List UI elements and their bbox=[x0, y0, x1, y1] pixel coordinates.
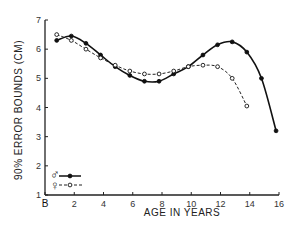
chart: B2468101214161234567 ♂♀ AGE IN YEARS 90%… bbox=[0, 0, 300, 231]
x-tick-label: 14 bbox=[245, 199, 255, 209]
x-tick-label: 6 bbox=[130, 199, 135, 209]
series-male-point bbox=[69, 34, 73, 38]
legend: ♂♀ bbox=[50, 167, 82, 193]
series-layer bbox=[55, 33, 278, 133]
x-tick-label: 4 bbox=[101, 199, 106, 209]
series-female-point bbox=[69, 39, 73, 43]
y-tick-label: 1 bbox=[36, 190, 41, 200]
series-female-point bbox=[186, 65, 190, 69]
series-female-point bbox=[99, 56, 103, 60]
series-male-point bbox=[201, 53, 205, 57]
series-male-point bbox=[55, 39, 59, 43]
series-female-point bbox=[157, 72, 161, 76]
series-female-point bbox=[245, 104, 249, 108]
series-male-point bbox=[260, 76, 264, 80]
series-female-point bbox=[55, 33, 59, 37]
series-female-point bbox=[84, 47, 88, 51]
series-male-point bbox=[84, 41, 88, 45]
y-tick-label: 2 bbox=[36, 161, 41, 171]
x-tick-label: 2 bbox=[72, 199, 77, 209]
y-tick-label: 3 bbox=[36, 132, 41, 142]
series-female-point bbox=[201, 63, 205, 67]
series-male-point bbox=[216, 43, 220, 47]
series-male-line bbox=[57, 36, 276, 131]
x-axis-title: AGE IN YEARS bbox=[144, 207, 220, 218]
y-axis-title: 90% ERROR BOUNDS (CM) bbox=[13, 40, 24, 180]
series-female-point bbox=[230, 76, 234, 80]
y-tick-label: 5 bbox=[36, 73, 41, 83]
series-male-point bbox=[143, 79, 147, 83]
axes: B2468101214161234567 bbox=[36, 15, 284, 209]
series-female-point bbox=[143, 72, 147, 76]
series-female-point bbox=[128, 69, 132, 73]
legend-male-marker bbox=[68, 174, 72, 178]
legend-female-marker bbox=[68, 183, 72, 187]
y-tick-label: 4 bbox=[36, 103, 41, 113]
series-female-point bbox=[216, 65, 220, 69]
series-male-point bbox=[230, 40, 234, 44]
series-male-point bbox=[157, 79, 161, 83]
y-tick-label: 7 bbox=[36, 15, 41, 25]
x-tick-label: 16 bbox=[274, 199, 284, 209]
series-male-point bbox=[128, 74, 132, 78]
x-tick-label: B bbox=[42, 198, 49, 209]
series-female-point bbox=[172, 69, 176, 73]
y-tick-label: 6 bbox=[36, 44, 41, 54]
series-male-point bbox=[245, 50, 249, 54]
series-female-point bbox=[113, 63, 117, 67]
series-male-point bbox=[274, 129, 278, 133]
female-symbol-icon: ♀ bbox=[50, 178, 60, 193]
